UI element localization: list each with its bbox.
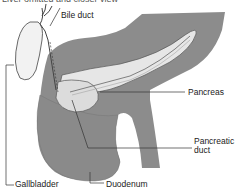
gallbladder-shape: [15, 22, 42, 80]
label-bile-duct: Bile duct: [61, 11, 94, 20]
pancreas-anatomy-illustration: [0, 0, 243, 194]
label-pancreatic-duct-2: duct: [194, 146, 210, 155]
pancreas-head: [56, 80, 98, 112]
label-pancreas: Pancreas: [188, 88, 224, 97]
label-duodenum: Duodenum: [106, 180, 148, 189]
label-gallbladder: Gallbladder: [15, 180, 58, 189]
